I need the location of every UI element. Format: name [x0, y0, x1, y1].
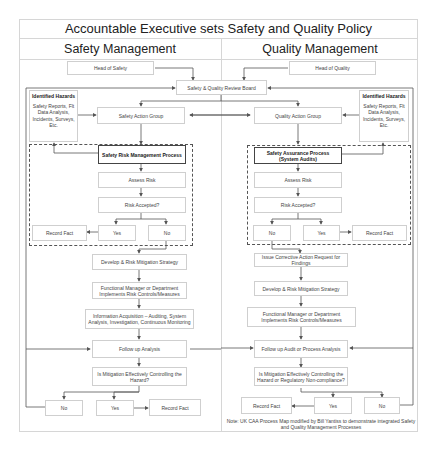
quality-action-group-box: Quality Action Group: [254, 107, 342, 124]
quality-implements-controls-box: Functional Manager or Department Impleme…: [247, 307, 356, 327]
quality-record-fact-final-box: Record Fact: [241, 397, 292, 414]
safety-yes-box: Yes: [98, 225, 136, 241]
safety-hazards-text: Safety Reports, Flt Data Analysis, Incid…: [32, 103, 74, 129]
safety-record-fact-final-box: Record Fact: [149, 399, 201, 416]
safety-action-group-box: Safety Action Group: [97, 107, 185, 124]
quality-risk-accepted-box: Risk Accepted?: [254, 197, 342, 213]
safety-develop-strategy-box: Develop & Risk Mitigation Strategy: [92, 254, 187, 270]
quality-mitigation-effective-box: Is Mitigation Effectively Controlling th…: [254, 367, 348, 386]
attribution-note: Note: UK CAA Process Map modified by Bil…: [224, 418, 418, 430]
head-of-quality-box: Head of Quality: [289, 61, 376, 75]
quality-no-final-box: No: [364, 397, 400, 414]
safety-risk-management-process-box: Safety Risk Management Process: [98, 145, 186, 164]
quality-corrective-action-box: Issue Corrective Action Request for Find…: [254, 253, 348, 267]
safety-implements-controls-box: Functional Manager or Department Impleme…: [92, 282, 187, 299]
quality-follow-up-audit-box: Follow up Audit or Process Analysis: [254, 340, 348, 358]
quality-no-box: No: [253, 225, 291, 241]
safety-information-acquisition-box: Information Acquisition – Auditing, Syst…: [85, 309, 194, 329]
quality-identified-hazards-box: Identified Hazards Safety Reports, Flt D…: [359, 90, 409, 142]
quality-yes-final-box: Yes: [314, 397, 352, 414]
quality-record-fact-box: Record Fact: [352, 225, 407, 241]
review-board-box: Safety & Quality Review Board: [176, 80, 267, 95]
quality-yes-box: Yes: [303, 225, 340, 241]
safety-yes-final-box: Yes: [96, 400, 134, 416]
safety-hazards-heading: Identified Hazards: [31, 93, 76, 100]
safety-assurance-process-box: Safety Assurance Process (System Audits): [254, 147, 342, 164]
safety-record-fact-box: Record Fact: [32, 225, 87, 241]
quality-assess-risk-box: Assess Risk: [254, 172, 342, 188]
safety-risk-accepted-box: Risk Accepted?: [98, 197, 186, 213]
quality-hazards-text: Safety Reports, Flt Data Analysis, Incid…: [363, 103, 405, 129]
quality-develop-strategy-box: Develop & Risk Mitigation Strategy: [254, 281, 348, 296]
safety-mitigation-effective-box: Is Mitigation Effectively Controlling th…: [92, 367, 187, 386]
head-of-safety-box: Head of Safety: [67, 61, 154, 75]
safety-assess-risk-box: Assess Risk: [98, 172, 186, 188]
safety-no-box: No: [148, 225, 186, 241]
safety-follow-up-analysis-box: Follow up Analysis: [92, 340, 187, 358]
safety-no-final-box: No: [45, 400, 83, 416]
quality-hazards-heading: Identified Hazards: [361, 93, 407, 100]
safety-identified-hazards-box: Identified Hazards Safety Reports, Flt D…: [29, 90, 78, 142]
